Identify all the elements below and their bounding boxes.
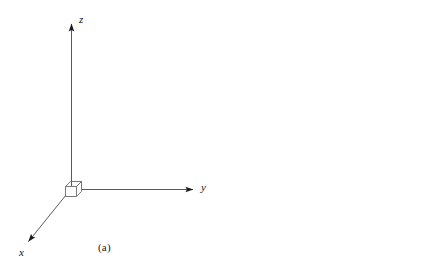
panel-a-caption: (a) xyxy=(98,241,111,253)
panel-a-coordinate-axes: z y x (a) xyxy=(0,0,224,278)
panel-a-x-axis-line xyxy=(29,195,67,242)
panel-a-y-axis-label: y xyxy=(201,181,206,193)
panel-a-drawing xyxy=(0,0,224,278)
panel-a-x-axis-label: x xyxy=(19,246,24,258)
panel-a-origin-cube xyxy=(66,182,82,197)
panel-b-right-hand: z y x (b) xyxy=(224,0,448,278)
panel-a-z-axis-label: z xyxy=(79,13,83,25)
figure-right-hand-rule: z y x (a) xyxy=(0,0,448,278)
